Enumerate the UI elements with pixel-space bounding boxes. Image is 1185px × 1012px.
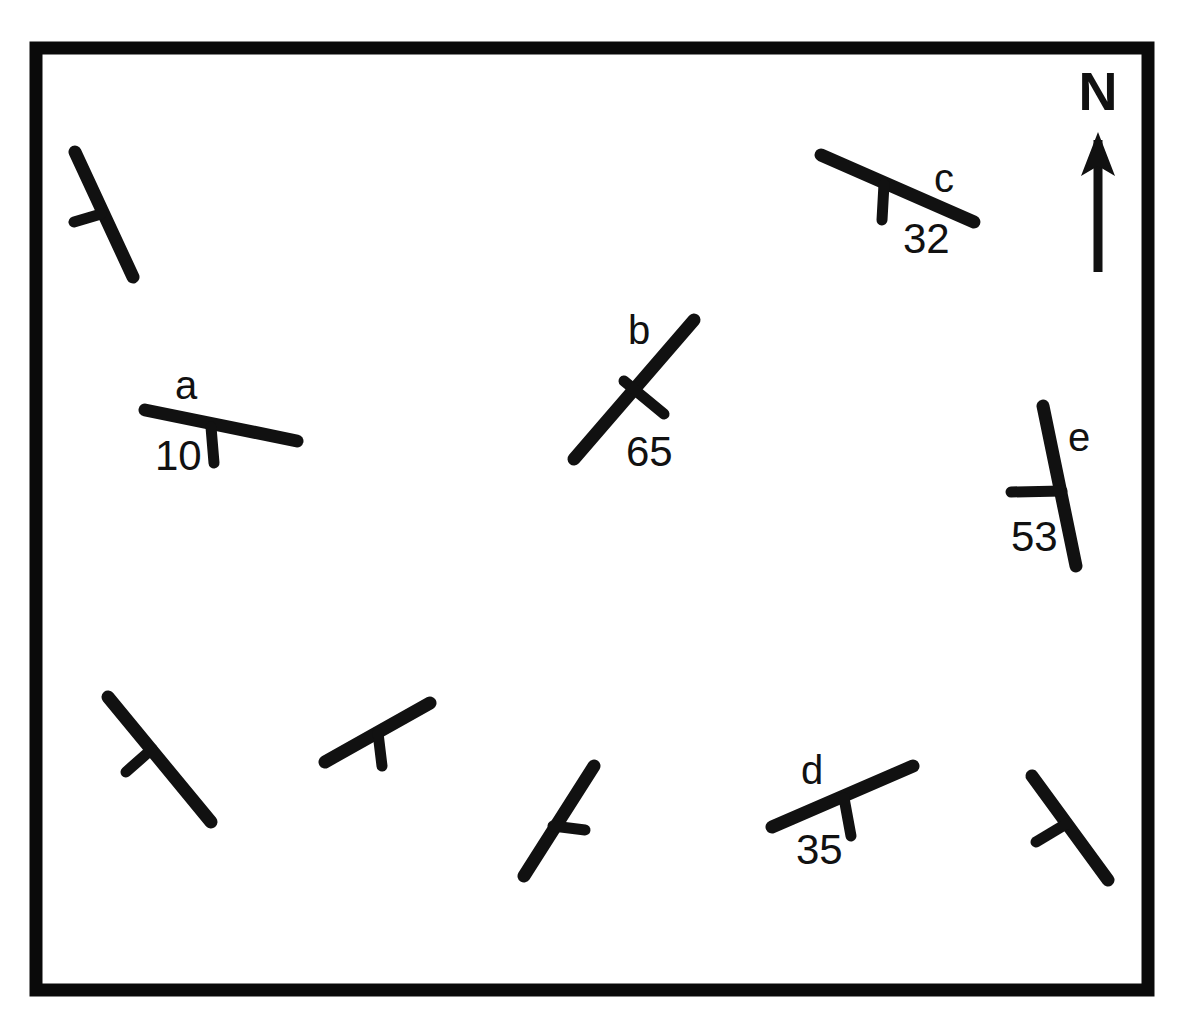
sym-e: e53 [1011,406,1090,566]
dip-tick [553,826,585,830]
symbol-letter-label: a [175,363,198,407]
strike-dip-symbols-group: a10b65c32d35e53 [74,152,1108,880]
dip-tick [378,733,382,766]
symbol-letter-label: d [801,748,823,792]
sym-d: d35 [772,748,913,873]
north-label: N [1079,61,1118,121]
dip-angle-value: 32 [903,215,950,262]
sym-u1 [74,152,133,277]
sym-a: a10 [145,363,297,479]
symbol-letter-label: c [934,156,954,200]
dip-angle-value: 35 [796,826,843,873]
strike-line [1032,776,1108,880]
sym-u2 [108,697,211,822]
dip-tick [1011,491,1062,492]
strike-line [108,697,211,822]
north-arrow: N [1079,61,1118,272]
sym-u3 [325,703,430,766]
dip-tick [74,214,101,222]
dip-tick [1036,824,1066,842]
dip-angle-value: 10 [155,432,202,479]
dip-tick [844,798,851,836]
dip-tick [211,427,214,463]
sym-b: b65 [574,308,694,475]
dip-tick [882,184,884,220]
map-frame-rect [36,48,1148,990]
dip-angle-value: 65 [626,428,673,475]
geologic-map-figure: a10b65c32d35e53 N [0,0,1185,1012]
strike-line [524,766,594,876]
map-border-frame [36,48,1148,990]
dip-tick [126,749,152,772]
sym-u5 [1032,776,1108,880]
symbol-letter-label: b [628,308,650,352]
symbol-letter-label: e [1068,415,1090,459]
dip-angle-value: 53 [1011,513,1058,560]
sym-u4 [524,766,594,876]
map-canvas: a10b65c32d35e53 N [0,0,1185,1012]
sym-c: c32 [821,155,974,262]
